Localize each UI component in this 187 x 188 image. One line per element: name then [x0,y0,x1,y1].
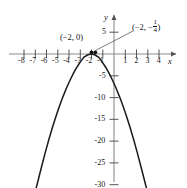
y-tick-label--20: -20 [95,137,106,145]
y-axis-label: y [104,13,108,22]
vertex-label-prefix: (−2, − [132,22,153,32]
x-tick-label--4: -4 [63,57,70,65]
point-label-vertex: (−2, −14) [132,19,160,35]
y-tick-label--15: -15 [95,115,106,123]
y-tick-label--5: -5 [99,72,106,80]
x-tick-label--8: -8 [18,57,25,65]
x-tick-label--2: -2 [86,57,93,65]
x-tick-label--1: -1 [97,57,104,65]
x-tick-label-3: 3 [146,57,150,65]
x-intercept-point [90,50,94,54]
vertex-label-suffix: ) [157,22,160,32]
x-tick-label-4: 4 [157,57,161,65]
x-tick-label--7: -7 [30,57,37,65]
y-tick-label--30: -30 [95,181,106,188]
graph-figure: -8 -7 -6 -5 -4 -3 -2 -1 1 2 3 4 5 -5 -10… [0,0,187,188]
y-tick-label-5: 5 [102,28,106,36]
x-tick-label-2: 2 [134,57,138,65]
parabola-curve [36,54,146,188]
y-tick-label--25: -25 [95,159,106,167]
x-tick-label-1: 1 [123,57,127,65]
x-tick-label--6: -6 [41,57,48,65]
x-axis-label: x [168,57,172,66]
x-tick-label--3: -3 [75,57,82,65]
vertex-point [93,50,97,54]
point-label-x-intercept: (−2, 0) [60,33,83,42]
y-tick-label--10: -10 [95,94,106,102]
x-tick-label--5: -5 [52,57,59,65]
